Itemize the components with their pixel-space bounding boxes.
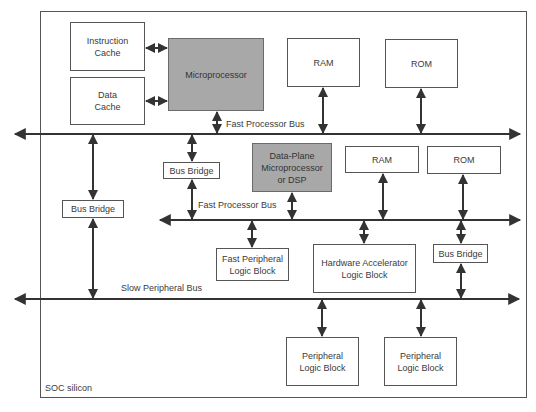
bus-lines [0, 0, 536, 412]
soc-block-diagram: Instruction Cache Data Cache Microproces… [0, 0, 536, 412]
